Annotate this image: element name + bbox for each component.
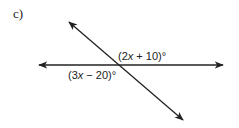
lower-left-angle-label: (3x − 20)° bbox=[68, 69, 116, 81]
upper-right-angle-label: (2x + 10)° bbox=[118, 50, 166, 62]
intersecting-lines-diagram: (2x + 10)° (3x − 20)° bbox=[0, 0, 239, 128]
